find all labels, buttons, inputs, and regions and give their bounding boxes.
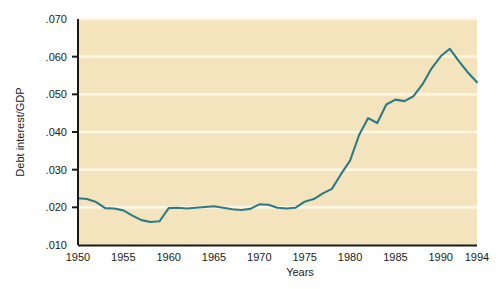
x-axis-title: Years [286,266,314,278]
y-tick-label: .010 [46,239,67,251]
x-tick-label: 1990 [428,251,452,263]
x-tick-label: 1985 [383,251,407,263]
x-tick-label: 1970 [247,251,271,263]
x-tick-label: 1955 [111,251,135,263]
y-tick-label: .060 [46,51,67,63]
y-tick-label: .030 [46,164,67,176]
x-tick-label: 1975 [292,251,316,263]
line-chart: .010.020.030.040.050.060.070 19501955196… [0,0,504,289]
x-tick-label: 1994 [465,251,489,263]
x-tick-label: 1965 [202,251,226,263]
x-tick-label: 1960 [156,251,180,263]
y-tick-label: .020 [46,201,67,213]
chart-figure: .010.020.030.040.050.060.070 19501955196… [0,0,504,289]
y-tick-label: .070 [46,13,67,25]
x-tick-label: 1980 [338,251,362,263]
y-tick-label: .040 [46,126,67,138]
y-tick-label: .050 [46,88,67,100]
y-axis-title: Debt interest/GDP [14,87,26,176]
x-tick-label: 1950 [66,251,90,263]
